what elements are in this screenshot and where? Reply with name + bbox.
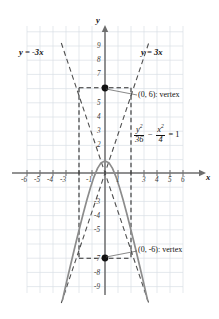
x-tick-label-4: 4 xyxy=(155,176,159,184)
x-tick-label-6: 6 xyxy=(181,176,185,184)
y-tick-label-5: 5 xyxy=(97,99,101,107)
y-tick-label--7: -7 xyxy=(94,255,100,263)
y-tick-label-8: 8 xyxy=(97,56,101,64)
equation-y-numerator: y2 xyxy=(134,124,144,135)
x-tick-label--4: -4 xyxy=(47,176,53,184)
vertex-dot-top xyxy=(102,85,109,92)
asymptote-label-positive-slope: y = 3x xyxy=(141,47,163,57)
y-tick-label-3: 3 xyxy=(97,127,101,135)
x-tick-label-5: 5 xyxy=(168,176,172,184)
y-tick-label-4: 4 xyxy=(97,113,101,121)
y-tick-label--8: -8 xyxy=(94,269,100,277)
asymptote-label-negative-slope: y = -3x xyxy=(19,47,43,57)
y-tick-label--9: -9 xyxy=(94,283,100,291)
hyperbola-figure: -6 -5 -4 -3 -1 1 3 4 5 6 9 8 7 5 4 3 2 -… xyxy=(0,0,219,319)
y-tick-label--4: -4 xyxy=(94,212,100,220)
x-tick-label--5: -5 xyxy=(34,176,40,184)
equation-equals-one: = 1 xyxy=(167,130,181,139)
y-axis-name: y xyxy=(96,15,100,25)
y-tick-label--5: -5 xyxy=(94,226,100,234)
y-tick-label-2: 2 xyxy=(97,141,101,149)
equation-x-exponent: 2 xyxy=(161,123,164,129)
equation-y-denominator: 36 xyxy=(134,135,144,145)
x-tick-label--1: -1 xyxy=(86,176,92,184)
equation-y-fraction: y2 36 xyxy=(134,124,144,144)
y-tick-label--3: -3 xyxy=(94,198,100,206)
x-tick-label--6: -6 xyxy=(21,176,27,184)
equation-x-numerator: x2 xyxy=(156,124,164,135)
hyperbola-equation: y2 36 − x2 4 = 1 xyxy=(134,124,181,144)
equation-x-denominator: 4 xyxy=(156,135,164,145)
x-axis-name: x xyxy=(206,172,210,182)
y-tick-label-7: 7 xyxy=(97,70,101,78)
equation-minus-sign: − xyxy=(146,130,154,139)
x-tick-label-1: 1 xyxy=(116,176,120,184)
vertex-top-callout: (0, 6): vertex xyxy=(138,90,180,99)
vertex-dot-bottom xyxy=(102,255,109,262)
x-tick-label--3: -3 xyxy=(60,176,66,184)
x-tick-label-3: 3 xyxy=(142,176,146,184)
equation-y-exponent: 2 xyxy=(140,123,143,129)
y-tick-label-9: 9 xyxy=(97,42,101,50)
equation-x-fraction: x2 4 xyxy=(156,124,164,144)
vertex-bottom-callout: (0, -6): vertex xyxy=(138,245,182,254)
